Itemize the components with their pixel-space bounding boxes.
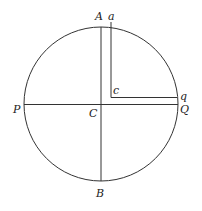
label-A: A	[94, 10, 103, 23]
label-P: P	[12, 103, 21, 116]
label-c: c	[113, 84, 119, 97]
label-q: q	[180, 90, 187, 103]
label-Q: Q	[180, 103, 189, 116]
label-B: B	[95, 187, 104, 200]
label-C: C	[89, 107, 98, 120]
label-a: a	[108, 10, 115, 23]
circle-diagram: A a c q Q P C B	[0, 0, 202, 211]
